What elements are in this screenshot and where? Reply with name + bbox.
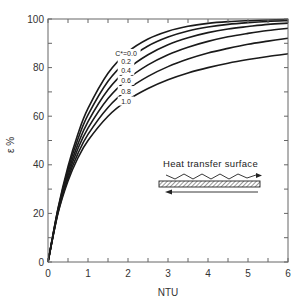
y-axis-label: ε % <box>5 137 16 153</box>
curve-label: C*=0.0 <box>115 50 137 57</box>
x-tick-label: 0 <box>45 268 51 279</box>
wavy-flow-arrow <box>166 174 256 179</box>
curve-label: 0.4 <box>121 67 131 74</box>
curve-label: 0.8 <box>121 88 131 95</box>
y-tick-label: 40 <box>33 159 45 170</box>
curve-c0.8 <box>48 38 288 262</box>
curve-label: 0.6 <box>121 77 131 84</box>
y-tick-label: 0 <box>38 257 44 268</box>
axis-tick-labels: 0123456020406080100 <box>27 14 291 280</box>
heat-transfer-surface-label: Heat transfer surface <box>163 158 258 169</box>
x-tick-label: 6 <box>285 268 291 279</box>
x-axis-label: NTU <box>158 287 179 298</box>
y-tick-label: 20 <box>33 208 45 219</box>
x-tick-label: 3 <box>165 268 171 279</box>
effectiveness-ntu-chart: C*=0.00.20.40.60.81.0 012345602040608010… <box>0 0 304 303</box>
x-tick-label: 4 <box>205 268 211 279</box>
curves <box>48 20 288 262</box>
x-tick-label: 1 <box>85 268 91 279</box>
arrowhead-right-icon <box>256 173 262 178</box>
y-tick-label: 80 <box>33 62 45 73</box>
y-tick-label: 100 <box>27 14 44 25</box>
x-tick-label: 5 <box>245 268 251 279</box>
curve-label: 1.0 <box>121 98 131 105</box>
y-tick-label: 60 <box>33 111 45 122</box>
hatched-wall <box>159 181 260 187</box>
arrowhead-left-icon <box>165 190 172 195</box>
x-tick-label: 2 <box>125 268 131 279</box>
curve-labels: C*=0.00.20.40.60.81.0 <box>111 49 140 106</box>
heat-transfer-surface-diagram: Heat transfer surface <box>159 158 262 195</box>
curve-label: 0.2 <box>121 58 131 65</box>
